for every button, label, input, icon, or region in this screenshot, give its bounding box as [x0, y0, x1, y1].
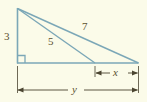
- label-hypotenuse: 7: [82, 21, 88, 32]
- dimension-y-arrow-left-icon: [18, 88, 24, 93]
- right-angle-marker-icon: [18, 56, 26, 64]
- dimension-x-arrow-left-icon: [96, 71, 102, 76]
- label-vertical-leg: 3: [4, 31, 10, 42]
- dimension-y: [18, 88, 139, 93]
- cevian-line: [18, 9, 96, 64]
- label-cevian: 5: [48, 36, 54, 47]
- dimension-y-arrow-right-icon: [132, 88, 138, 93]
- label-segment-x: x: [113, 67, 118, 78]
- dimension-x-arrow-right-icon: [132, 71, 138, 76]
- label-base-y: y: [72, 84, 77, 95]
- geometry-figure: 3 5 7 x y: [0, 0, 147, 102]
- hypotenuse-line: [18, 9, 139, 64]
